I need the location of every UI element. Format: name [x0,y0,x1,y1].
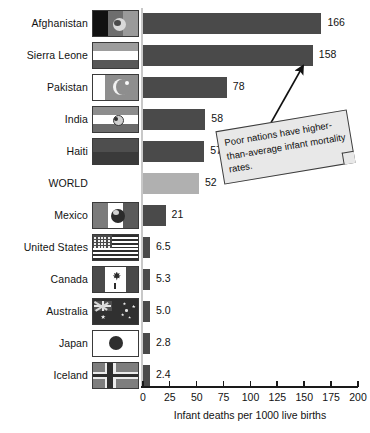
flag-australia-icon [92,298,139,325]
chart-row: United States6.5 [0,232,370,264]
bar [143,237,150,258]
x-axis-title: Infant deaths per 1000 live births [141,409,359,422]
bar-value-label: 6.5 [156,240,171,253]
category-label: India [2,113,88,126]
category-label: Iceland [2,369,88,382]
category-label: Afghanistan [2,17,88,30]
bar-value-label: 5.3 [156,272,171,285]
flag-haiti-icon [92,138,139,165]
category-label: Sierra Leone [2,49,88,62]
flag-japan-icon [92,330,139,357]
x-axis-tick-label: 100 [236,391,266,404]
bar-value-label: 58 [211,112,223,125]
bar-value-label: 2.4 [156,368,171,381]
chart-row: WORLD52 [0,168,370,200]
x-axis-tick [196,381,198,387]
flag-iceland-icon [92,362,139,389]
bar-value-label: 158 [319,48,337,61]
category-label: Canada [2,273,88,286]
flag-afghanistan-icon [92,10,139,37]
infant-mortality-bar-chart: Afghanistan166Sierra Leone158Pakistan78I… [0,0,370,433]
category-label: Japan [2,337,88,350]
category-label: Pakistan [2,81,88,94]
flag-canada-icon [92,266,139,293]
x-axis-tick [223,381,225,387]
flag-placeholder [92,170,139,197]
category-label: WORLD [2,177,88,190]
flag-united-states-icon [92,234,139,261]
bar [143,109,205,130]
bar-value-label: 52 [205,176,217,189]
chart-row: Japan2.8 [0,328,370,360]
category-label: United States [2,241,88,254]
chart-row: Mexico21 [0,200,370,232]
category-label: Australia [2,305,88,318]
x-axis-tick-label: 50 [182,391,212,404]
bar-value-label: 166 [327,16,345,29]
chart-row: Australia5.0 [0,296,370,328]
x-axis-tick [303,381,305,387]
callout-folded-corner [342,151,356,165]
bar-value-label: 78 [233,80,245,93]
x-axis-tick [250,381,252,387]
bar [143,269,150,290]
chart-row: Afghanistan166 [0,8,370,40]
flag-india-icon [92,106,139,133]
x-axis-tick [169,381,171,387]
x-axis-tick [276,381,278,387]
bar [143,333,150,354]
bar [143,13,321,34]
chart-row: Canada5.3 [0,264,370,296]
bar [143,77,227,98]
x-axis-tick-label: 200 [343,391,370,404]
bar-value-label: 5.0 [156,304,171,317]
x-axis-tick-label: 25 [155,391,185,404]
flag-sierra-leone-icon [92,42,139,69]
x-axis-tick [357,381,359,387]
x-axis-tick-label: 75 [209,391,239,404]
category-label: Mexico [2,209,88,222]
x-axis-tick-label: 175 [316,391,346,404]
bar [143,141,204,162]
bar [143,301,150,322]
category-label: Haiti [2,145,88,158]
x-axis-tick-label: 125 [262,391,292,404]
x-axis-tick [142,381,144,387]
bar [143,173,199,194]
x-axis-tick-label: 150 [289,391,319,404]
bar-value-label: 2.8 [156,336,171,349]
bar [143,365,150,386]
flag-pakistan-icon [92,74,139,101]
flag-mexico-icon [92,202,139,229]
bar [143,205,166,226]
x-axis-tick-label: 0 [128,391,158,404]
bar-value-label: 21 [172,208,184,221]
x-axis-tick [330,381,332,387]
